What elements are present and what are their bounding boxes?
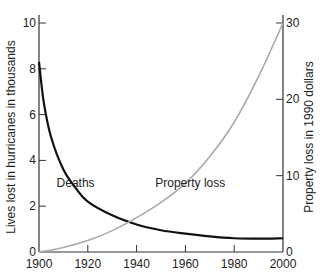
annotation-deaths: Deaths	[57, 176, 95, 190]
x-tick-label: 1960	[172, 257, 199, 271]
chart: 02468100102030190019201940196019802000De…	[0, 0, 324, 277]
series-deaths	[39, 62, 283, 239]
y-tick-label: 4	[29, 153, 36, 167]
y2-tick-label: 10	[286, 169, 300, 183]
y-axis-label: Lives lost in hurricanes in thousands	[4, 40, 18, 233]
y-tick-label: 8	[29, 62, 36, 76]
y2-tick-label: 30	[286, 16, 300, 30]
y-tick-label: 6	[29, 108, 36, 122]
x-tick-label: 2000	[270, 257, 297, 271]
series-property-loss	[39, 23, 283, 252]
y2-axis-label: Property loss in 1990 dollars	[302, 61, 316, 212]
annotation-property-loss: Property loss	[155, 176, 225, 190]
y2-tick-label: 20	[286, 92, 300, 106]
x-tick-label: 1900	[26, 257, 53, 271]
y-tick-label: 2	[29, 199, 36, 213]
x-tick-label: 1980	[221, 257, 248, 271]
y-tick-label: 10	[23, 16, 37, 30]
plot-area: 02468100102030190019201940196019802000De…	[23, 15, 300, 271]
x-tick-label: 1940	[123, 257, 150, 271]
x-tick-label: 1920	[74, 257, 101, 271]
